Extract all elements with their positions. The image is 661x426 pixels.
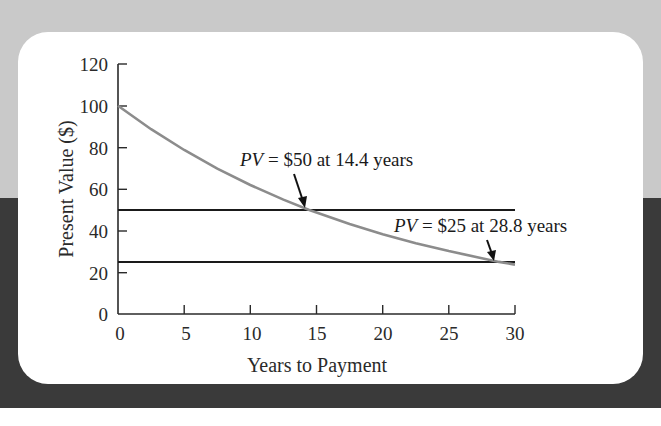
y-tick-label: 20 <box>89 263 108 284</box>
x-tick-label: 10 <box>243 323 262 344</box>
y-tick-label: 40 <box>89 221 108 242</box>
x-ticks <box>184 305 515 314</box>
y-tick-label: 100 <box>80 96 109 117</box>
x-tick-label: 30 <box>506 323 525 344</box>
x-tick-label: 25 <box>440 323 459 344</box>
present-value-chart: 120 100 80 60 40 20 0 0 5 10 15 20 25 30… <box>0 0 661 426</box>
arrow-icon <box>294 174 307 208</box>
y-tick-labels: 120 100 80 60 40 20 0 <box>80 54 109 325</box>
axes <box>118 64 515 314</box>
y-axis-title: Present Value ($) <box>55 120 78 257</box>
arrow-icon <box>487 240 496 261</box>
x-tick-label: 5 <box>181 323 191 344</box>
y-tick-label: 80 <box>89 138 108 159</box>
y-tick-label: 60 <box>89 179 108 200</box>
x-tick-label: 15 <box>308 323 327 344</box>
present-value-curve <box>118 106 515 265</box>
x-tick-labels: 0 5 10 15 20 25 30 <box>115 323 524 344</box>
x-tick-label: 20 <box>374 323 393 344</box>
x-tick-label: 0 <box>115 323 125 344</box>
x-axis-title: Years to Payment <box>247 354 388 377</box>
annotation-pv-50: PV = $50 at 14.4 years <box>239 149 413 170</box>
y-tick-label: 0 <box>99 304 109 325</box>
y-ticks <box>118 64 127 273</box>
annotation-pv-25: PV = $25 at 28.8 years <box>393 215 567 236</box>
y-tick-label: 120 <box>80 54 109 75</box>
